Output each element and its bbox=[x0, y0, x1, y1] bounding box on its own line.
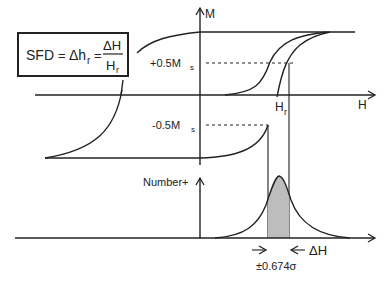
sfd-diagram: SFD = Δh r = ΔH H r H M +0.5M s -0.5M s … bbox=[0, 0, 391, 285]
formula-eq2: = bbox=[94, 48, 102, 63]
descending-branch-upper bbox=[137, 32, 200, 53]
hr-label-sub: r bbox=[284, 107, 287, 117]
minus-half-ms-label: -0.5M bbox=[152, 119, 180, 131]
m-axis-label: M bbox=[205, 7, 215, 21]
formula-denominator: H bbox=[106, 58, 115, 73]
sigma-label: ±0.674σ bbox=[256, 260, 297, 272]
number-axis-label: Number+ bbox=[143, 176, 189, 188]
formula-delta-hr-sub: r bbox=[87, 55, 91, 66]
recoil-curve bbox=[277, 32, 330, 97]
descending-branch-lower bbox=[45, 90, 122, 158]
formula-delta-hr: Δh bbox=[69, 47, 86, 63]
h-axis-label: H bbox=[358, 98, 367, 112]
formula-sfd: SFD bbox=[26, 47, 54, 63]
major-loop-ascending bbox=[225, 32, 327, 95]
minus-half-ms-sub: s bbox=[191, 125, 195, 134]
minus-branch-ascending bbox=[200, 125, 268, 158]
plus-half-ms-sub: s bbox=[190, 63, 194, 72]
formula-eq1: = bbox=[58, 48, 66, 63]
hr-label: H bbox=[275, 100, 284, 114]
delta-h-label: ΔH bbox=[309, 243, 327, 258]
formula-numerator: ΔH bbox=[103, 38, 121, 53]
formula-denominator-sub: r bbox=[116, 65, 119, 75]
plus-half-ms-label: +0.5M bbox=[150, 57, 181, 69]
